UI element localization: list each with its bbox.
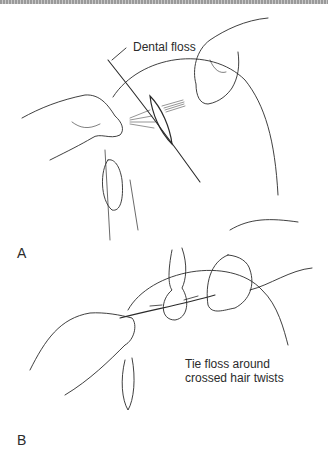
annotation-tie-floss-line1: Tie floss around [185, 358, 270, 371]
annotation-dental-floss: Dental floss [133, 41, 196, 54]
annotation-tie-floss-line2: crossed hair twists [185, 372, 284, 385]
panel-letter-a: A [17, 245, 26, 261]
panel-letter-b: B [17, 432, 26, 448]
